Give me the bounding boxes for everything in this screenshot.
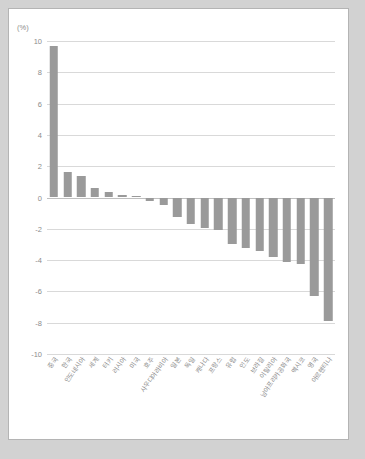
x-axis-tick-label: 러시아 <box>112 356 128 374</box>
bar <box>118 195 126 197</box>
y-axis-tick-label: -6 <box>35 287 42 296</box>
bar-slot <box>198 41 212 354</box>
bar-slot <box>170 41 184 354</box>
bar-slot <box>143 41 157 354</box>
bar-slot <box>184 41 198 354</box>
y-axis-tick-label: 10 <box>34 37 42 46</box>
bar <box>187 198 195 225</box>
bar <box>296 198 304 265</box>
bar <box>104 192 112 197</box>
bar-slot <box>88 41 102 354</box>
bar <box>283 198 291 262</box>
y-axis-tick-label: -2 <box>35 224 42 233</box>
bar <box>63 172 71 197</box>
y-axis-tick-label: 8 <box>38 68 42 77</box>
bar <box>159 198 167 206</box>
bar <box>269 198 277 257</box>
y-axis-unit-label: (%) <box>17 23 29 32</box>
bar <box>50 46 58 198</box>
x-axis-tick-label: 프랑스 <box>208 356 224 374</box>
bar-slot <box>102 41 116 354</box>
x-axis-tick-label: 중국 <box>47 356 59 370</box>
bar-series <box>47 41 335 354</box>
y-axis-tick-label: 6 <box>38 99 42 108</box>
x-axis-tick-label: 멕시코 <box>290 356 306 374</box>
y-axis-tick-label: -10 <box>31 350 42 359</box>
bar <box>132 196 140 198</box>
bar-slot <box>74 41 88 354</box>
bar-slot <box>321 41 335 354</box>
bar <box>77 176 85 198</box>
bar <box>146 198 154 201</box>
bar-slot <box>225 41 239 354</box>
y-axis-tick-label: 2 <box>38 162 42 171</box>
bar <box>214 198 222 231</box>
x-axis-tick-label: 캐나다 <box>194 356 210 374</box>
bar-slot <box>280 41 294 354</box>
bar-slot <box>294 41 308 354</box>
bar-slot <box>253 41 267 354</box>
bar <box>228 198 236 245</box>
bar <box>255 198 263 252</box>
chart-figure: (%) 1086420-2-4-6-8-10 중국한국인도네시아세계터키러시아미… <box>8 8 349 440</box>
x-axis-tick-label: 세계 <box>88 356 100 370</box>
y-axis-tick-label: -8 <box>35 318 42 327</box>
bar <box>91 188 99 197</box>
y-axis-tick-label: 0 <box>38 193 42 202</box>
bar-slot <box>266 41 280 354</box>
y-axis-tick-label: -4 <box>35 256 42 265</box>
x-axis-tick-label: 일본 <box>170 356 182 370</box>
bar-slot <box>308 41 322 354</box>
bar-slot <box>47 41 61 354</box>
bar-slot <box>212 41 226 354</box>
bar-slot <box>61 41 75 354</box>
bar <box>200 198 208 229</box>
bar-slot <box>157 41 171 354</box>
x-axis-tick-label: 유럽 <box>225 356 237 370</box>
x-axis-labels: 중국한국인도네시아세계터키러시아미국호주사우디아라비아일본독일캐나다프랑스유럽인… <box>47 354 335 438</box>
bar <box>242 198 250 248</box>
bar-slot <box>116 41 130 354</box>
y-axis-tick-label: 4 <box>38 130 42 139</box>
bar <box>324 198 332 322</box>
bar <box>173 198 181 218</box>
plot-area: 1086420-2-4-6-8-10 <box>47 41 335 354</box>
bar <box>310 198 318 297</box>
bar-slot <box>239 41 253 354</box>
x-axis-tick-label: 미국 <box>129 356 141 370</box>
bar-slot <box>129 41 143 354</box>
